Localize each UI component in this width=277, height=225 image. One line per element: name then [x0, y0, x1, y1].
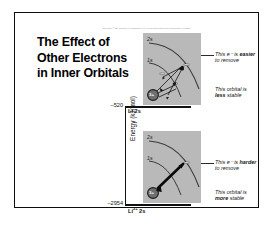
- electron-1s-a-upper: [160, 73, 164, 75]
- annotation-upper-orbital-line1: This orbital is: [215, 86, 247, 92]
- annotation-upper-electron-line2: to remove: [215, 57, 239, 63]
- orbital-label-1s-lower: 1s: [147, 155, 152, 161]
- annotation-lower-electron-line2: to remove: [215, 165, 239, 171]
- y-axis-label: Energy (kJ/mol): [129, 79, 136, 159]
- title-line-1: The Effect of: [37, 35, 145, 51]
- orbital-panel-lower: 2s 1s 3+: [143, 131, 201, 203]
- annotation-lower-electron: This e⁻ is harder to remove: [215, 159, 256, 172]
- annotation-upper-orbital-suffix: stable: [226, 92, 242, 98]
- axis-tick-upper: –520: [101, 102, 123, 108]
- slide-frame: Copyright © The McGraw-Hill Companies, I…: [14, 12, 259, 208]
- state-label-li2plus-2s: Li2+ 2s: [128, 206, 145, 214]
- attraction-arrow-lower: [156, 163, 185, 192]
- slide-figure: Copyright © The McGraw-Hill Companies, I…: [0, 0, 277, 225]
- copyright-notice: Copyright © The McGraw-Hill Companies, I…: [87, 26, 207, 30]
- nucleus-charge-lower: 3+: [149, 190, 154, 195]
- orbital-label-1s-upper: 1s: [147, 57, 152, 63]
- annotation-lower-orbital: This orbital is more stable: [215, 189, 247, 202]
- orbital-panel-upper: 2s 1s 3+: [143, 33, 201, 105]
- state-label-li-2s: Li 2s: [128, 108, 141, 114]
- nucleus-charge-upper: 3+: [149, 92, 154, 97]
- electron-2s-lower: [184, 162, 189, 164]
- annotation-lower-orbital-suffix: stable: [228, 195, 244, 201]
- annotation-lower-electron-emphasis: harder: [240, 159, 257, 165]
- annotation-lower-orbital-line1: This orbital is: [215, 189, 247, 195]
- electron-2s-upper: [184, 64, 189, 66]
- annotation-upper-electron-text: This e⁻ is: [215, 51, 240, 57]
- annotation-upper-orbital-emphasis: less: [215, 92, 226, 98]
- annotation-lower-electron-text: This e⁻ is: [215, 159, 240, 165]
- title-line-2: Other Electrons: [37, 51, 145, 67]
- state-label-suffix: 2s: [138, 207, 146, 213]
- axis-spine: [125, 106, 126, 205]
- page-title: The Effect of Other Electrons in Inner O…: [37, 35, 145, 82]
- annotation-upper-electron-emphasis: easier: [240, 51, 256, 57]
- leader-line-upper: [201, 55, 214, 56]
- axis-tick-lower: –2954: [99, 200, 123, 206]
- orbital-label-2s-lower: 2s: [147, 134, 152, 140]
- annotation-upper-orbital: This orbital is less stable: [215, 86, 247, 99]
- leader-line-lower: [201, 163, 214, 164]
- orbital-label-2s-upper: 2s: [147, 36, 152, 42]
- annotation-lower-orbital-emphasis: more: [215, 195, 228, 201]
- annotation-upper-electron: This e⁻ is easier to remove: [215, 51, 255, 64]
